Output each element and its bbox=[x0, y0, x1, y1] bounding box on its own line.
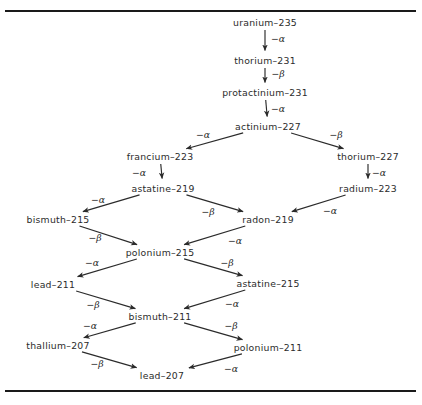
isotope-node-bi215: bismuth–215 bbox=[27, 214, 90, 225]
decay-label-e15: −β bbox=[86, 299, 99, 310]
decay-label-e17: −α bbox=[83, 320, 97, 331]
isotope-node-bi211: bismuth–211 bbox=[129, 311, 192, 322]
decay-label-e9: −β bbox=[201, 206, 214, 217]
isotope-node-th231: thorium–231 bbox=[234, 55, 296, 66]
isotope-node-pa231: protactinium–231 bbox=[222, 87, 308, 98]
isotope-node-po211: polonium–211 bbox=[234, 342, 303, 353]
decay-label-e5: −β bbox=[329, 129, 342, 140]
isotope-node-rn219: radon–219 bbox=[242, 214, 294, 225]
decay-arrow-po215-to-at215 bbox=[184, 259, 242, 276]
isotope-node-fr223: francium–223 bbox=[127, 151, 194, 162]
isotope-node-ra223: radium–223 bbox=[339, 183, 397, 194]
decay-label-e4: −α bbox=[196, 129, 210, 140]
decay-label-e19: −β bbox=[90, 358, 103, 369]
decay-label-e16: −α bbox=[225, 298, 239, 309]
decay-label-e13: −α bbox=[85, 257, 99, 268]
decay-label-e10: −α bbox=[323, 205, 337, 216]
decay-arrow-pb211-to-bi211 bbox=[76, 291, 135, 309]
isotope-node-ac227: actinium–227 bbox=[235, 121, 301, 132]
decay-label-e1: −α bbox=[271, 33, 285, 44]
isotope-node-pb211: lead–211 bbox=[31, 279, 75, 290]
decay-label-e14: −β bbox=[220, 257, 233, 268]
isotope-node-at219: astatine–219 bbox=[131, 183, 194, 194]
decay-arrow-fr223-to-at219 bbox=[161, 164, 162, 179]
decay-label-e11: −β bbox=[88, 232, 101, 243]
decay-arrow-at219-to-rn219 bbox=[186, 195, 243, 212]
decay-label-e6: −α bbox=[132, 167, 146, 178]
decay-label-e2: −β bbox=[271, 68, 284, 79]
decay-arrow-ra223-to-rn219 bbox=[292, 195, 346, 212]
decay-label-e20: −α bbox=[224, 363, 238, 374]
decay-chain-figure: uranium–235thorium–231protactinium–231ac… bbox=[0, 0, 422, 405]
isotope-node-tl207: thallium–207 bbox=[26, 340, 89, 351]
decay-arrow-pa231-to-ac227 bbox=[266, 100, 267, 117]
decay-label-e3: −α bbox=[271, 103, 285, 114]
isotope-node-po215: polonium–215 bbox=[126, 247, 195, 258]
decay-label-e12: −α bbox=[228, 235, 242, 246]
isotope-node-u235: uranium–235 bbox=[233, 17, 297, 28]
decay-label-e8: −α bbox=[91, 194, 105, 205]
decay-label-e18: −β bbox=[224, 320, 237, 331]
decay-arrow-ac227-to-fr223 bbox=[186, 133, 243, 149]
decay-label-e7: −α bbox=[372, 167, 386, 178]
isotope-node-th227: thorium–227 bbox=[337, 151, 399, 162]
isotope-node-at215: astatine–215 bbox=[236, 278, 299, 289]
isotope-node-pb207: lead–207 bbox=[140, 370, 184, 381]
